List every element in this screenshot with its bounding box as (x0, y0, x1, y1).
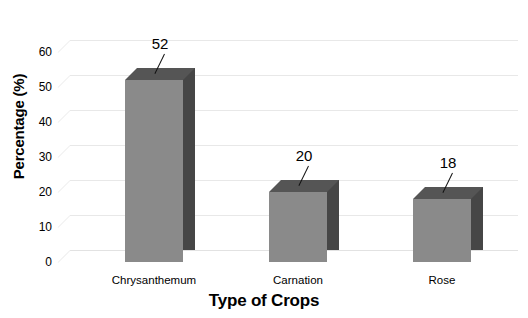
bar-top-quad (269, 180, 339, 192)
bar-front-face (413, 199, 471, 262)
bar-top-face (269, 180, 339, 192)
bar-front-face (269, 192, 327, 262)
x-axis-tick-label: Rose (382, 274, 502, 286)
depth-line (58, 180, 71, 193)
y-axis-tick-label: 60 (6, 46, 52, 58)
bar-front-face (125, 80, 183, 262)
depth-line (58, 40, 71, 53)
bar-top-face (413, 187, 483, 199)
y-axis-tick-label: 50 (6, 81, 52, 93)
depth-line (58, 250, 71, 263)
data-label: 52 (130, 36, 190, 51)
x-axis-title: Type of Crops (0, 291, 528, 311)
bar-top-quad (125, 68, 195, 80)
bar (269, 8, 339, 262)
y-axis-tick-label: 0 (6, 256, 52, 268)
depth-line (58, 215, 71, 228)
bar-chart: Percentage (%) Type of Crops 01020304050… (0, 0, 528, 318)
x-axis-tick-label: Carnation (238, 274, 358, 286)
bar-side-face (183, 68, 195, 250)
bar-top-face (125, 68, 195, 80)
bar (413, 8, 483, 262)
depth-line (58, 145, 71, 158)
data-label: 20 (274, 148, 334, 163)
y-axis-tick-label: 10 (6, 221, 52, 233)
x-axis-tick-label: Chrysanthemum (94, 274, 214, 286)
data-label: 18 (418, 155, 478, 170)
depth-line (58, 75, 71, 88)
y-axis-tick-label: 30 (6, 151, 52, 163)
bar-top-quad (413, 187, 483, 199)
y-axis-tick-label: 40 (6, 116, 52, 128)
plot-area: 0102030405060 522018 ChrysanthemumCarnat… (58, 8, 518, 264)
y-axis-tick-label: 20 (6, 186, 52, 198)
depth-line (58, 110, 71, 123)
